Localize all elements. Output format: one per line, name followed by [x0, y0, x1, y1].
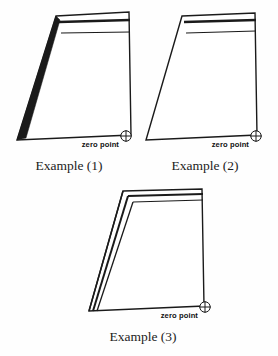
example-1-zero-point-label: zero point: [82, 140, 120, 149]
example-3-caption: Example (3): [109, 329, 176, 344]
example-1-caption: Example (1): [35, 158, 102, 173]
example-2-caption: Example (2): [171, 158, 238, 173]
example-3-zero-point-label: zero point: [161, 311, 199, 320]
zero-point-figure: zero point Example (1) zero point Exampl…: [0, 0, 278, 356]
example-2-zero-point-label: zero point: [212, 140, 250, 149]
